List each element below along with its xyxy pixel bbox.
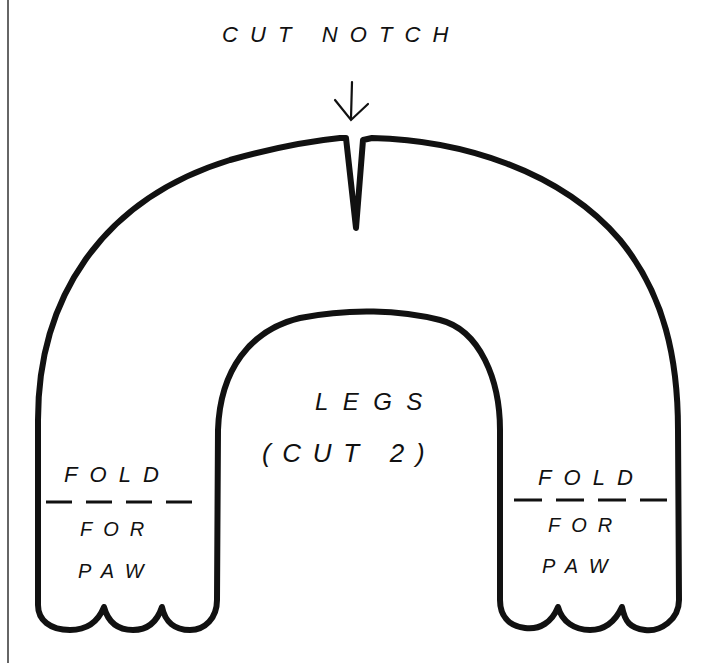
for-label-right: FOR	[548, 514, 623, 537]
piece-title-label: LEGS	[315, 388, 437, 416]
cut-count-label: (CUT 2)	[262, 438, 436, 469]
for-label-left: FOR	[80, 518, 155, 541]
paw-label-right: PAW	[542, 555, 619, 578]
paw-label-left: PAW	[78, 560, 155, 583]
cut-notch-label: CUT NOTCH	[222, 22, 460, 48]
fold-label-right: FOLD	[538, 465, 645, 491]
fold-label-left: FOLD	[64, 462, 171, 488]
arrow-down-icon	[335, 82, 368, 120]
